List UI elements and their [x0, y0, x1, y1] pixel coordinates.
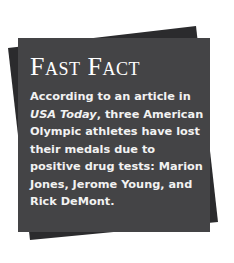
body-text-end: , three American Olympic athletes have l… — [30, 108, 203, 209]
card-title: Fast Fact — [30, 52, 210, 82]
body-text-start: According to an article in — [30, 90, 191, 103]
fast-fact-card: Fast Fact According to an article in USA… — [18, 38, 210, 232]
card-body: According to an article in USA Today, th… — [30, 88, 208, 211]
publication-name: USA Today — [30, 108, 97, 121]
